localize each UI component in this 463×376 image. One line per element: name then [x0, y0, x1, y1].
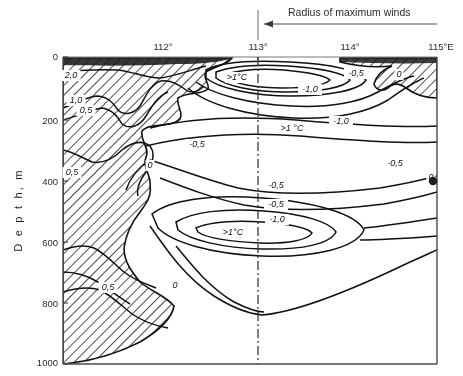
x-tick-113: 113° [249, 41, 268, 52]
annotation-label: Radius of maximum winds [288, 6, 411, 18]
edge-marker-blob [429, 177, 437, 185]
contour-label-12: >1 °C [281, 123, 304, 133]
x-tick-114: 114° [341, 41, 360, 52]
figure-container: Radius of maximum winds D e p t h, m 0 2… [0, 0, 463, 376]
contour-label-6: 0 [172, 280, 177, 290]
contour-label-17: >1°C [223, 227, 244, 237]
x-tick-112: 112° [154, 41, 173, 52]
contour-label-11: -1,0 [333, 116, 349, 126]
contour-label-15: -0,5 [268, 199, 285, 209]
contour-label-1: 1,0 [70, 95, 83, 105]
y-axis-label: D e p t h, m [12, 168, 24, 251]
y-tick-1000: 1000 [37, 357, 58, 368]
contour-cross-section-figure: Radius of maximum winds D e p t h, m 0 2… [0, 0, 463, 376]
contour-label-7: >1°C [227, 72, 248, 82]
contour-label-14: -0,5 [268, 180, 285, 190]
contour-label-2: 0,5 [80, 105, 94, 115]
contour-label-16: -1,0 [269, 214, 285, 224]
contour-label-5: 0,5 [102, 282, 116, 292]
contour-label-10: 0 [396, 69, 401, 79]
contour-label-9: -0,5 [348, 68, 365, 78]
contour-label-8: -1,0 [302, 84, 318, 94]
x-tick-115: 115°E [428, 41, 453, 52]
y-tick-200: 200 [42, 115, 58, 126]
y-tick-600: 600 [42, 237, 58, 248]
y-tick-400: 400 [42, 176, 58, 187]
contour-label-13: -0,5 [189, 139, 206, 149]
contour-label-18: -0,5 [387, 158, 404, 168]
contour-label-0: 2,0 [64, 70, 78, 80]
contour-label-4: 0 [147, 160, 152, 170]
contour-label-3: 0,5 [66, 167, 80, 177]
y-tick-0: 0 [53, 51, 58, 62]
y-tick-800: 800 [42, 298, 58, 309]
